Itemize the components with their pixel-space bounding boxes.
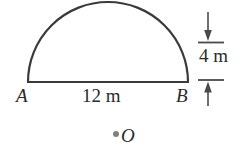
geometry-figure: A B 12 m 4 m O [0, 0, 240, 155]
label-span-dimension: 12 m [82, 86, 121, 105]
point-o-dot [113, 131, 119, 137]
label-point-o: O [121, 126, 135, 145]
label-point-a: A [16, 86, 28, 105]
arc-curve [28, 2, 188, 82]
label-point-b: B [176, 86, 188, 105]
label-height-dimension: 4 m [199, 46, 228, 65]
figure-canvas [0, 0, 240, 155]
dimension-lower-arrowhead-up-icon [204, 82, 212, 93]
dimension-upper-arrowhead-down-icon [204, 30, 212, 41]
